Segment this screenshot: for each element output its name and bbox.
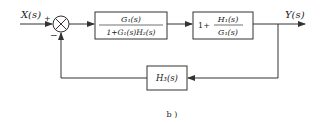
block-1-numerator: G₁(s) bbox=[121, 15, 141, 24]
forward-block-1: G₁(s) 1+G₁(s)H₂(s) bbox=[95, 12, 167, 39]
feedback-block: H₃(s) bbox=[147, 66, 187, 90]
feedback-path-to-junction bbox=[61, 33, 147, 78]
block-2-prefix: 1+ bbox=[198, 21, 210, 30]
input-label: X(s) bbox=[20, 9, 41, 20]
minus-sign: − bbox=[50, 30, 58, 40]
figure-caption: b ) bbox=[167, 110, 178, 119]
feedback-block-label: H₃(s) bbox=[155, 73, 178, 83]
block-diagram: X(s) + − G₁(s) 1+G₁(s)H₂(s) 1+ H₁(s) G₁(… bbox=[0, 0, 320, 124]
block-2-numerator: H₁(s) bbox=[217, 15, 239, 24]
output-label: Y(s) bbox=[285, 9, 305, 20]
forward-block-2: 1+ H₁(s) G₁(s) bbox=[193, 12, 253, 39]
plus-sign: + bbox=[44, 14, 51, 23]
block-2-denominator: G₁(s) bbox=[218, 28, 238, 37]
block-1-denominator: 1+G₁(s)H₂(s) bbox=[106, 28, 155, 37]
